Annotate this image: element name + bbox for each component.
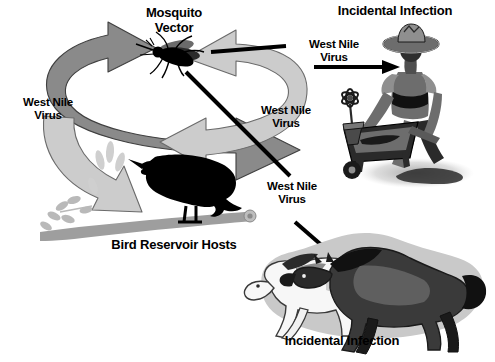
label-wnv-to-human: West Nile Virus [288, 38, 380, 64]
label-bird-reservoir-hosts: Bird Reservoir Hosts [88, 238, 260, 253]
label-incidental-infection-horse: Incidental Infection [262, 334, 422, 349]
label-wnv-right: West Nile Virus [240, 104, 332, 130]
label-wnv-to-horse: West Nile Virus [246, 180, 338, 206]
diagram-canvas: Mosquito Vector Incidental Infection Wes… [0, 0, 495, 362]
mosquito-illustration [136, 32, 204, 78]
label-incidental-infection-human: Incidental Infection [300, 4, 490, 19]
label-mosquito-vector: Mosquito Vector [120, 6, 228, 35]
label-wnv-left: West Nile Virus [2, 96, 94, 122]
bird-illustration [128, 155, 242, 222]
